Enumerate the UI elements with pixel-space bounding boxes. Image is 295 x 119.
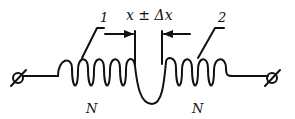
leader-line-2 [198,28,224,58]
coil-1-number: 1 [100,10,108,25]
inductor-diagram: 1 2 x ± Δx N N [0,0,295,119]
coil-2 [166,58,233,85]
arrowhead-right-icon [163,30,173,38]
arrowhead-left-icon [124,30,134,38]
gap-dip [135,62,166,104]
coil-2-turns-label: N [191,101,204,116]
leader-line-1 [82,28,104,58]
coil-1 [58,59,135,86]
right-terminal-icon [265,70,280,86]
coil-2-number: 2 [217,10,226,25]
left-terminal-icon [11,70,26,86]
coil-1-turns-label: N [85,101,98,116]
gap-label: x ± Δx [126,7,173,23]
